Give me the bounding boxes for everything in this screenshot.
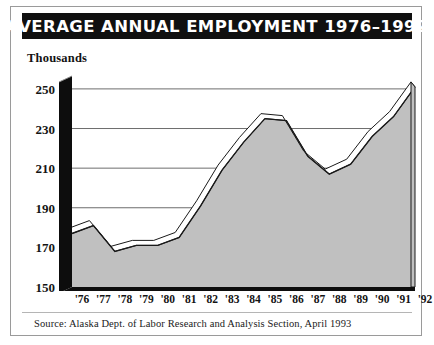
x-axis-tick: '89	[353, 294, 368, 306]
x-axis-tick: '82	[203, 294, 218, 306]
x-axis-tick: '81	[182, 294, 197, 306]
y-axis-tick: 210	[21, 162, 55, 175]
x-axis-tick: '76	[75, 294, 90, 306]
source-note: Source: Alaska Dept. of Labor Research a…	[22, 312, 412, 333]
x-axis-tick: '83	[225, 294, 240, 306]
source-text: Source: Alaska Dept. of Labor Research a…	[22, 318, 351, 329]
area-series	[68, 82, 415, 287]
chart-figure: AVERAGE ANNUAL EMPLOYMENT 1976–1992 Thou…	[10, 6, 422, 336]
chart-svg	[59, 69, 417, 291]
x-axis-tick: '85	[268, 294, 283, 306]
x-axis-tick: '77	[96, 294, 111, 306]
x-axis-tick: '84	[246, 294, 261, 306]
x-axis-tick-labels: '76'77'78'79'80'81'82'83'84'85'86'87'88'…	[59, 294, 417, 312]
y-axis-tick: 150	[21, 281, 55, 294]
x-axis-tick: '80	[160, 294, 175, 306]
x-axis-tick: '86	[289, 294, 304, 306]
chart-title-bar: AVERAGE ANNUAL EMPLOYMENT 1976–1992	[22, 13, 412, 39]
chart-plot-area	[59, 69, 417, 291]
chart-title: AVERAGE ANNUAL EMPLOYMENT 1976–1992	[6, 17, 428, 36]
x-axis-tick: '87	[310, 294, 325, 306]
y-axis-tick: 170	[21, 241, 55, 254]
x-axis-tick: '88	[332, 294, 347, 306]
y-axis-tick: 250	[21, 83, 55, 96]
x-axis-tick: '91	[396, 294, 411, 306]
x-axis-tick: '79	[139, 294, 154, 306]
x-axis-tick: '90	[375, 294, 390, 306]
y-axis-tick-labels: 150170190210230250	[17, 7, 55, 337]
x-axis-tick: '78	[118, 294, 133, 306]
y-axis-tick: 190	[21, 202, 55, 215]
y-axis-tick: 230	[21, 123, 55, 136]
x-axis-tick: '92	[418, 294, 433, 306]
